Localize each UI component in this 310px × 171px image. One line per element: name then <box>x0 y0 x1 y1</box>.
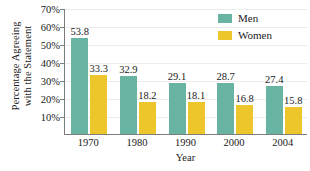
y-axis-tick-mark <box>60 99 64 100</box>
y-axis-tick-mark <box>60 63 64 64</box>
y-axis-tick-label: 30% <box>24 76 60 87</box>
bar-value-label: 16.8 <box>232 93 258 104</box>
y-axis-line <box>64 9 65 135</box>
bar-value-label: 18.1 <box>183 90 209 101</box>
y-axis-tick-label: 40% <box>24 58 60 69</box>
bar-chart: Percentage Agreeing with the Statement 1… <box>0 0 310 171</box>
bar-women-1970 <box>90 75 107 135</box>
y-axis-tick-mark <box>60 117 64 118</box>
legend-swatch-women <box>218 31 232 40</box>
legend-label: Men <box>238 12 258 24</box>
bar-value-label: 32.9 <box>115 64 141 75</box>
y-axis-tick-label: 70% <box>24 4 60 15</box>
x-axis-tick-label: 2000 <box>224 137 245 148</box>
y-axis-tick-mark <box>60 9 64 10</box>
bar-women-2004 <box>285 107 302 135</box>
legend-item-women: Women <box>218 29 272 41</box>
bar-value-label: 53.8 <box>67 26 93 37</box>
x-axis-tick-label: 1980 <box>126 137 147 148</box>
x-axis-line <box>64 134 307 135</box>
y-axis-tick-mark <box>60 81 64 82</box>
y-axis-tick-label: 60% <box>24 22 60 33</box>
bar-men-1980 <box>120 76 137 135</box>
bar-group: 29.118.1 <box>169 9 205 135</box>
bar-women-1990 <box>188 102 205 135</box>
x-axis-title: Year <box>64 152 307 163</box>
y-axis-tick-label: 20% <box>24 94 60 105</box>
bar-men-2004 <box>266 86 283 135</box>
bar-women-1980 <box>139 102 156 135</box>
bar-value-label: 33.3 <box>86 63 112 74</box>
y-axis-tick-label: 50% <box>24 40 60 51</box>
bar-group: 32.918.2 <box>120 9 156 135</box>
chart-legend: MenWomen <box>218 12 272 46</box>
x-axis-tick-label: 2004 <box>272 137 293 148</box>
x-axis-tick-label: 1970 <box>78 137 99 148</box>
x-axis-tick-labels: 19701980199020002004 <box>64 137 307 151</box>
y-axis-tick-mark <box>60 45 64 46</box>
bar-men-1970 <box>71 38 88 135</box>
bar-value-label: 18.2 <box>134 90 160 101</box>
bar-value-label: 29.1 <box>164 71 190 82</box>
y-axis-tick-mark <box>60 27 64 28</box>
legend-swatch-men <box>218 14 232 23</box>
y-axis-tick-label: 10% <box>24 112 60 123</box>
bar-value-label: 28.7 <box>213 71 239 82</box>
bar-women-2000 <box>236 105 253 135</box>
legend-label: Women <box>238 29 272 41</box>
y-axis-title-line-1: Percentage Agreeing <box>10 21 22 110</box>
bar-men-2000 <box>217 83 234 135</box>
bar-group: 53.833.3 <box>71 9 107 135</box>
bar-value-label: 15.8 <box>280 95 306 106</box>
y-axis-tick-labels: 10%20%30%40%50%60%70% <box>24 9 60 135</box>
x-axis-tick-label: 1990 <box>175 137 196 148</box>
legend-item-men: Men <box>218 12 272 24</box>
bar-value-label: 27.4 <box>261 74 287 85</box>
